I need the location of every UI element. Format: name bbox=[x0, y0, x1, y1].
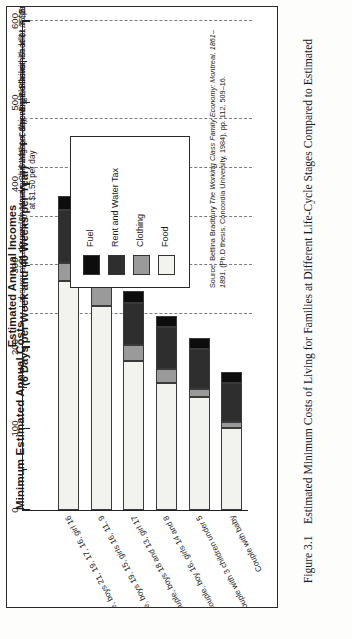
figure-caption-text: Estimated Minimum Costs of Living for Fa… bbox=[302, 39, 315, 524]
income-reference-line bbox=[30, 20, 252, 21]
bar-segment-rent[interactable] bbox=[123, 303, 144, 345]
legend-item[interactable]: Fuel bbox=[81, 145, 103, 275]
chart: Estimated Annual Incomes (6 Days per Wee… bbox=[8, 8, 276, 606]
legend-swatch-rent-and-water-tax bbox=[108, 255, 125, 275]
axis-tick-label: 0 bbox=[9, 490, 20, 530]
source-prefix: Source: Bettina Bradbury bbox=[208, 204, 217, 288]
bar-segment-food[interactable] bbox=[91, 306, 112, 510]
source-note: Source: Bettina Bradbury The Working Cla… bbox=[208, 26, 228, 288]
bar-segment-clothing[interactable] bbox=[156, 369, 177, 383]
bar-segment-clothing[interactable] bbox=[189, 389, 210, 396]
bar-segment-fuel[interactable] bbox=[123, 291, 144, 303]
legend-item[interactable]: Clothing bbox=[131, 145, 153, 275]
figure-caption: Figure 3.1 Estimated Minimum Costs of Li… bbox=[286, 6, 348, 616]
legend-swatch-clothing bbox=[133, 255, 150, 275]
legend-label: Rent and Water Tax bbox=[110, 168, 120, 247]
bar-segment-fuel[interactable] bbox=[156, 316, 177, 327]
bar-segment-clothing[interactable] bbox=[221, 422, 242, 428]
legend-label: Food bbox=[160, 226, 170, 247]
legend-item[interactable]: Food bbox=[156, 145, 178, 275]
bar-segment-fuel[interactable] bbox=[221, 372, 242, 383]
bar-segment-food[interactable] bbox=[123, 361, 144, 510]
bar-segment-food[interactable] bbox=[58, 281, 79, 510]
bar-segment-food[interactable] bbox=[156, 383, 177, 510]
figure-number: Figure 3.1 bbox=[302, 535, 315, 583]
axis-tick-label: 100 bbox=[9, 409, 20, 449]
bar-segment-food[interactable] bbox=[189, 397, 210, 510]
bar-segment-rent[interactable] bbox=[156, 327, 177, 369]
legend-label: Clothing bbox=[135, 214, 145, 247]
bar-segment-fuel[interactable] bbox=[189, 338, 210, 349]
legend-label: Fuel bbox=[85, 229, 95, 247]
figure-page: Estimated Annual Incomes (6 Days per Wee… bbox=[0, 0, 352, 639]
chart-plate: Estimated Annual Incomes (6 Days per Wee… bbox=[6, 6, 278, 608]
axis-tick-label: 200 bbox=[9, 327, 20, 367]
legend-swatch-fuel bbox=[83, 255, 100, 275]
legend-swatch-food bbox=[158, 255, 175, 275]
bar-segment-food[interactable] bbox=[221, 428, 242, 510]
legend-item[interactable]: Rent and Water Tax bbox=[106, 145, 128, 275]
bar-segment-clothing[interactable] bbox=[123, 345, 144, 360]
bar-segment-rent[interactable] bbox=[221, 383, 242, 422]
source-suffix: , (Ph.D thesis, Concordia University, 19… bbox=[218, 76, 227, 272]
legend: FuelRent and Water TaxClothingFood bbox=[70, 136, 190, 288]
bar-segment-rent[interactable] bbox=[189, 349, 210, 390]
rotated-chart-container: Estimated Annual Incomes (6 Days per Wee… bbox=[8, 8, 276, 606]
